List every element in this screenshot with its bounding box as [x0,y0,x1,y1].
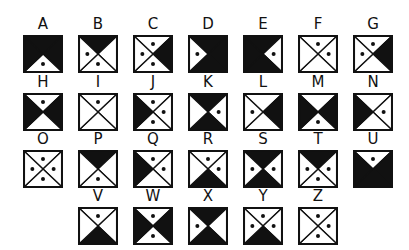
letter-label: N [353,73,393,91]
letter-label: B [78,15,118,33]
cipher-glyph-icon [243,93,283,131]
letter-label: Q [133,130,173,148]
cipher-glyph-icon [298,35,338,73]
letter-label: Y [243,187,283,205]
letter-label: G [353,15,393,33]
cipher-glyph-icon [188,150,228,188]
cipher-glyph-icon [23,35,63,73]
cipher-glyph-icon [133,35,173,73]
letter-label: K [188,73,228,91]
cipher-glyph-icon [353,93,393,131]
letter-label: J [133,73,173,91]
cipher-glyph-icon [78,93,118,131]
cipher-glyph-icon [133,207,173,245]
letter-label: H [23,73,63,91]
cipher-glyph-icon [298,93,338,131]
cipher-glyph-icon [188,35,228,73]
cipher-glyph-icon [133,93,173,131]
letter-label: O [23,130,63,148]
cipher-glyph-icon [353,35,393,73]
cipher-glyph-icon [78,35,118,73]
letter-label: P [78,130,118,148]
cipher-glyph-icon [133,150,173,188]
letter-label: X [188,187,228,205]
letter-label: A [23,15,63,33]
cipher-glyph-icon [298,150,338,188]
letter-label: C [133,15,173,33]
cipher-glyph-icon [78,150,118,188]
letter-label: F [298,15,338,33]
cipher-glyph-icon [298,207,338,245]
cipher-glyph-icon [353,150,393,188]
letter-label: M [298,73,338,91]
cipher-glyph-icon [23,150,63,188]
letter-label: Z [298,187,338,205]
letter-label: E [243,15,283,33]
letter-label: W [133,187,173,205]
letter-label: D [188,15,228,33]
letter-label: V [78,187,118,205]
cipher-glyph-icon [243,150,283,188]
letter-label: R [188,130,228,148]
cipher-glyph-icon [23,93,63,131]
letter-label: S [243,130,283,148]
letter-label: I [78,73,118,91]
letter-label: L [243,73,283,91]
cipher-glyph-icon [78,207,118,245]
letter-label: T [298,130,338,148]
letter-label: U [353,130,393,148]
cipher-glyph-icon [243,207,283,245]
cipher-glyph-icon [188,93,228,131]
cipher-glyph-icon [243,35,283,73]
cipher-glyph-icon [188,207,228,245]
